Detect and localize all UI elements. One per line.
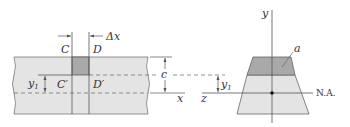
cross-section-view: y a y1 z N.A.: [200, 7, 336, 123]
label-D: D: [92, 43, 102, 56]
label-D-prime: D′: [92, 78, 105, 91]
arrowhead-icon: [164, 88, 167, 92]
arrowhead-icon: [67, 35, 71, 38]
beam-side-view: C D Δx C′ D′ y1 c x: [13, 30, 226, 114]
label-y-axis: y: [261, 7, 269, 20]
label-C-prime: C′: [57, 78, 68, 91]
arrowhead-icon: [90, 35, 94, 38]
label-x-axis: x: [177, 92, 184, 105]
label-neutral-axis: N.A.: [316, 88, 336, 98]
shaded-element: [72, 57, 89, 75]
centroid-dot: [270, 91, 274, 95]
label-area-a: a: [294, 42, 301, 55]
label-delta-x: Δx: [105, 30, 121, 43]
arrowhead-icon: [164, 58, 167, 62]
label-y1-section: y1: [220, 78, 232, 92]
label-z-axis: z: [200, 92, 207, 105]
shaded-area-a: [247, 57, 295, 75]
cross-section-lower: [237, 75, 309, 114]
arrowhead-icon: [217, 76, 220, 80]
arrowhead-icon: [217, 88, 220, 92]
label-C: C: [61, 43, 70, 56]
beam-bending-diagram: C D Δx C′ D′ y1 c x y a y1 z N.A.: [0, 0, 350, 127]
label-c: c: [161, 68, 167, 81]
